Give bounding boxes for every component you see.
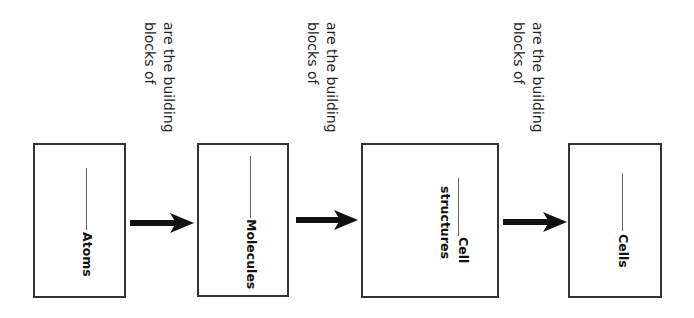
edge-label-1-line1: are the building — [159, 22, 178, 133]
edge-label-2-line1: are the building — [322, 22, 341, 133]
edge-label-2-line2: blocks of — [303, 22, 322, 133]
node-cells-label: Cells — [614, 234, 632, 268]
node-cell-structures — [361, 143, 499, 298]
edge-label-3-line2: blocks of — [509, 22, 528, 133]
edge-label-1: are the building blocks of — [140, 22, 178, 133]
arrow-right-icon — [503, 211, 567, 233]
edge-label-3: are the building blocks of — [509, 22, 547, 133]
arrow-right-icon — [130, 212, 194, 234]
node-molecules-blank — [250, 156, 251, 218]
node-atoms-label: Atoms — [78, 232, 96, 277]
arrow-right-icon — [296, 209, 358, 231]
node-atoms-blank — [86, 168, 87, 230]
node-cell-structures-line1: Cell — [454, 186, 472, 263]
edge-label-1-line2: blocks of — [140, 22, 159, 133]
node-cells — [568, 143, 662, 298]
node-molecules-label: Molecules — [242, 219, 260, 289]
edge-label-2: are the building blocks of — [303, 22, 341, 133]
node-cell-structures-line2: structures — [436, 186, 454, 263]
node-cell-structures-label: Cell structures — [436, 186, 472, 263]
edge-label-3-line1: are the building — [528, 22, 547, 133]
node-cells-blank — [622, 173, 623, 231]
